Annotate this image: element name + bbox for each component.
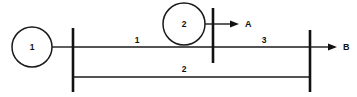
branch-label-3: 3	[262, 35, 267, 45]
machine-label-1: 1	[30, 42, 35, 52]
machine-label-2: 2	[182, 19, 187, 29]
branch-label-2: 2	[182, 64, 187, 74]
branch-label-1: 1	[135, 35, 140, 45]
diagram-canvas: 1 2 A B 1 3 2	[0, 0, 357, 97]
single-line-diagram: 1 2 A B 1 3 2	[0, 0, 357, 97]
load-label-b: B	[343, 42, 350, 52]
arrow-right-icon-b	[328, 44, 337, 51]
arrow-right-icon-a	[230, 21, 239, 28]
load-label-a: A	[245, 19, 252, 29]
